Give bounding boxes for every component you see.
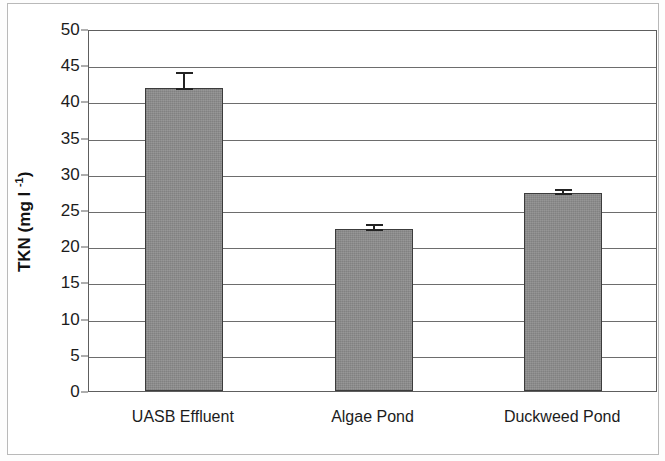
y-tick-label: 35 bbox=[61, 129, 80, 149]
y-tick-label: 10 bbox=[61, 310, 80, 330]
error-bar-cap-bottom bbox=[366, 229, 383, 231]
y-tick-mark bbox=[81, 66, 88, 67]
error-bar-cap-bottom bbox=[176, 88, 193, 90]
y-tick-mark bbox=[81, 102, 88, 103]
x-tick-label: Duckweed Pond bbox=[504, 408, 621, 426]
x-tick-label: Algae Pond bbox=[331, 408, 414, 426]
y-tick-label: 20 bbox=[61, 237, 80, 257]
y-tick-mark bbox=[81, 247, 88, 248]
y-tick-label: 25 bbox=[61, 201, 80, 221]
error-bar-cap-bottom bbox=[555, 193, 572, 195]
y-tick-mark bbox=[81, 283, 88, 284]
y-tick-mark bbox=[81, 211, 88, 212]
y-tick-mark bbox=[81, 138, 88, 139]
x-tick-label: UASB Effluent bbox=[132, 408, 234, 426]
y-tick-label: 5 bbox=[70, 346, 80, 366]
error-bar-cap-top bbox=[366, 224, 383, 226]
y-axis: 05101520253035404550 bbox=[0, 0, 88, 461]
y-tick-label: 50 bbox=[61, 20, 80, 40]
plot-area bbox=[88, 30, 657, 392]
y-tick-label: 30 bbox=[61, 165, 80, 185]
error-bar-cap-top bbox=[555, 189, 572, 191]
bar bbox=[335, 229, 413, 391]
y-tick-mark bbox=[81, 355, 88, 356]
bar bbox=[524, 193, 602, 391]
y-tick-mark bbox=[81, 392, 88, 393]
y-tick-mark bbox=[81, 30, 88, 31]
gridline bbox=[89, 67, 656, 68]
y-tick-label: 15 bbox=[61, 273, 80, 293]
figure: TKN (mg l -1) 05101520253035404550 UASB … bbox=[0, 0, 665, 461]
y-tick-label: 45 bbox=[61, 56, 80, 76]
y-tick-label: 40 bbox=[61, 92, 80, 112]
bar bbox=[145, 88, 223, 391]
y-tick-mark bbox=[81, 174, 88, 175]
y-tick-label: 0 bbox=[70, 382, 80, 402]
y-tick-mark bbox=[81, 319, 88, 320]
error-bar-cap-top bbox=[176, 72, 193, 74]
